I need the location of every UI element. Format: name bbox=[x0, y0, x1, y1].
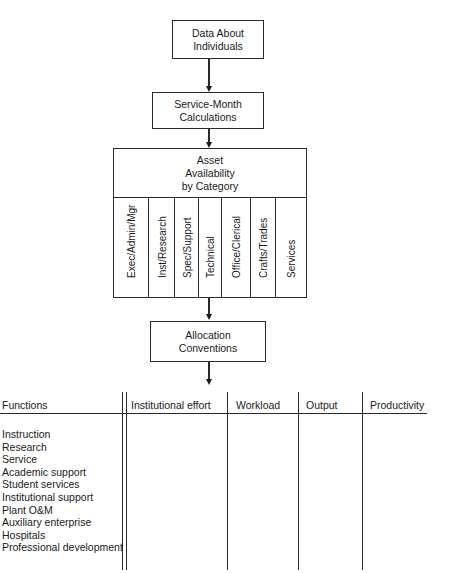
header-functions: Functions bbox=[2, 399, 48, 411]
box-label-line1: Asset bbox=[182, 154, 239, 167]
category-column: Spec/Support bbox=[175, 197, 199, 297]
column-divider bbox=[362, 392, 363, 570]
category-label: Inst/Research bbox=[156, 216, 167, 278]
header-institutional-effort: Institutional effort bbox=[131, 399, 211, 411]
function-item: Professional development bbox=[2, 541, 123, 554]
function-item: Hospitals bbox=[2, 529, 123, 542]
category-column: Technical bbox=[199, 197, 222, 297]
function-item: Plant O&M bbox=[2, 504, 123, 517]
header-productivity: Productivity bbox=[370, 399, 424, 411]
asset-availability-box: Asset Availability by Category bbox=[113, 148, 307, 198]
category-label: Crafts/Trades bbox=[258, 218, 269, 278]
category-label: Exec/Admin/Mgr bbox=[126, 205, 137, 278]
box-label-line2: Individuals bbox=[192, 40, 244, 53]
data-about-individuals-box: Data About Individuals bbox=[172, 20, 264, 59]
category-column: Office/Clerical bbox=[222, 197, 251, 297]
box-label-line1: Allocation bbox=[179, 329, 237, 342]
function-item: Academic support bbox=[2, 466, 123, 479]
box-label-line2: Availability bbox=[182, 167, 239, 180]
header-workload: Workload bbox=[236, 399, 280, 411]
box-label-line2: Calculations bbox=[174, 111, 242, 124]
column-divider bbox=[298, 392, 299, 570]
arrow-down-icon bbox=[206, 379, 212, 385]
arrow-down-icon bbox=[206, 314, 212, 320]
connector-line bbox=[208, 362, 210, 380]
box-label-line2: Conventions bbox=[179, 342, 237, 355]
function-item: Research bbox=[2, 441, 123, 454]
category-column: Exec/Admin/Mgr bbox=[114, 197, 149, 297]
connector-line bbox=[208, 129, 210, 143]
column-divider bbox=[227, 392, 228, 570]
box-label-line1: Data About bbox=[192, 27, 244, 40]
column-divider-double-right bbox=[126, 392, 127, 570]
category-column: Services bbox=[276, 197, 306, 297]
header-output: Output bbox=[306, 399, 338, 411]
category-label: Services bbox=[286, 240, 297, 278]
allocation-conventions-box: Allocation Conventions bbox=[150, 321, 266, 362]
box-label-line1: Service-Month bbox=[174, 98, 242, 111]
category-label: Office/Clerical bbox=[231, 216, 242, 278]
function-item: Instruction bbox=[2, 428, 123, 441]
category-label: Spec/Support bbox=[181, 217, 192, 278]
category-column: Inst/Research bbox=[149, 197, 175, 297]
service-month-calculations-box: Service-Month Calculations bbox=[152, 92, 264, 129]
connector-line bbox=[208, 298, 210, 315]
category-label: Technical bbox=[205, 236, 216, 278]
function-item: Auxiliary enterprise bbox=[2, 516, 123, 529]
asset-category-columns: Exec/Admin/Mgr Inst/Research Spec/Suppor… bbox=[113, 197, 307, 298]
function-item: Service bbox=[2, 453, 123, 466]
function-item: Student services bbox=[2, 478, 123, 491]
function-item: Institutional support bbox=[2, 491, 123, 504]
box-label-line3: by Category bbox=[182, 180, 239, 193]
connector-line bbox=[208, 59, 210, 86]
category-column: Crafts/Trades bbox=[251, 197, 276, 297]
functions-list: Instruction Research Service Academic su… bbox=[2, 428, 123, 554]
